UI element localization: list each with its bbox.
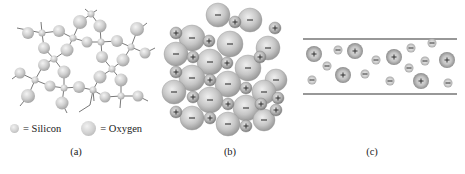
negative-signs	[310, 43, 451, 83]
dispersed-ions-diagram	[295, 0, 465, 120]
oxygen-atoms	[15, 15, 151, 110]
positive-signs	[312, 49, 450, 84]
legend-oxygen-label: = Oxygen	[100, 123, 142, 134]
negative-ions	[308, 39, 453, 88]
panel-c-dispersed-ions: (c)	[295, 0, 465, 174]
oxygen-sphere-icon	[81, 121, 96, 136]
legend: = Silicon = Oxygen	[10, 120, 142, 136]
caption-a: (a)	[56, 146, 96, 157]
panel-b-ionic-crystal: (b)	[160, 0, 295, 174]
caption-c: (c)	[352, 146, 392, 157]
panel-a-silica-network: = Silicon = Oxygen (a)	[0, 0, 160, 174]
silica-network-diagram	[0, 0, 160, 120]
legend-silicon-label: = Silicon	[23, 123, 61, 134]
ionic-crystal-diagram	[160, 0, 295, 140]
silicon-sphere-icon	[10, 124, 19, 133]
legend-oxygen: = Oxygen	[81, 121, 142, 136]
legend-silicon: = Silicon	[10, 123, 61, 134]
caption-b: (b)	[210, 146, 250, 157]
